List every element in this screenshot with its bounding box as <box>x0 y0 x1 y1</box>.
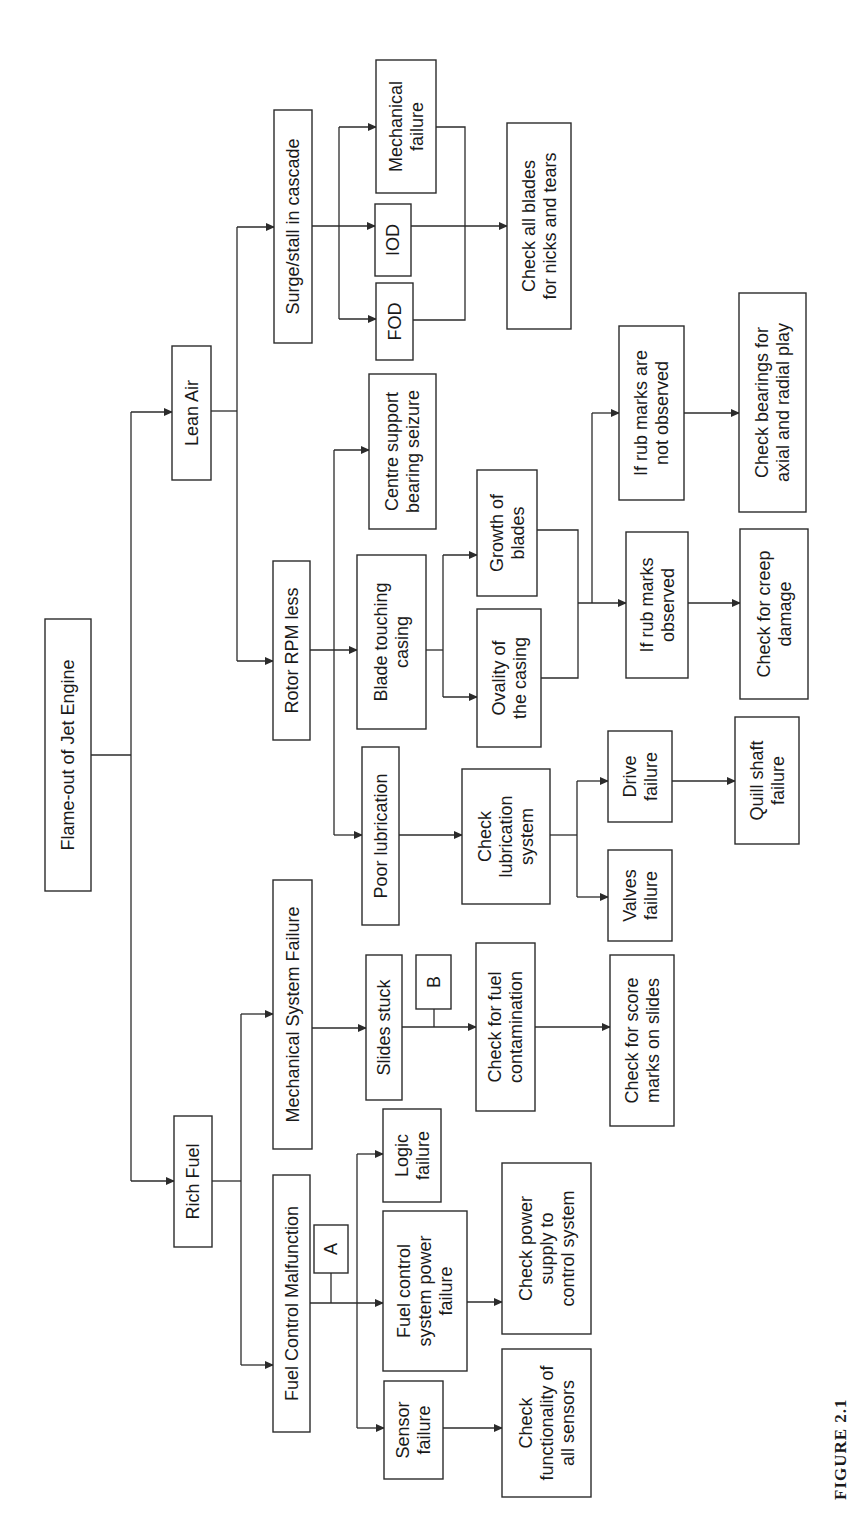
node-label: Rotor RPM less <box>282 587 302 713</box>
node-label: If rub marks arenot observed <box>631 350 672 476</box>
node-fuel-ctrl: Fuel Control Malfunction <box>273 1175 310 1432</box>
node-ovality: Ovality ofthe casing <box>477 609 541 747</box>
node-label: Surge/stall in cascade <box>283 138 303 314</box>
figure-caption: FIGURE 2.1 <box>831 1398 850 1500</box>
node-check-contam: Check for fuelcontamination <box>476 943 535 1111</box>
node-fc-power-fail: Fuel controlsystem powerfailure <box>383 1211 467 1371</box>
node-rub-observed: If rub marksobserved <box>626 532 688 678</box>
node-label: Mechanical System Failure <box>283 906 303 1122</box>
node-drive-fail: Drivefailure <box>608 731 672 822</box>
node-rich-fuel: Rich Fuel <box>174 1116 212 1247</box>
node-logic-fail: Logicfailure <box>383 1109 441 1202</box>
node-label: Lean Air <box>182 380 202 446</box>
node-centre-support: Centre supportbearing seizure <box>369 374 436 529</box>
node-root: Flame-out of Jet Engine <box>45 619 91 891</box>
node-label: Flame-out of Jet Engine <box>58 659 78 850</box>
node-slides-stuck: Slides stuck <box>366 955 402 1100</box>
node-mech-sys: Mechanical System Failure <box>273 880 312 1149</box>
node-label: Logicfailure <box>392 1131 433 1180</box>
node-check-blades: Check all bladesfor nicks and tears <box>507 123 571 329</box>
node-label: Slides stuck <box>374 978 394 1075</box>
node-iod: IOD <box>375 204 411 276</box>
node-quill-fail: Quill shaftfailure <box>735 717 799 844</box>
diagram-nodes: Flame-out of Jet EngineLean AirRich Fuel… <box>45 60 808 1497</box>
node-label: Drivefailure <box>620 752 661 801</box>
node-rub-not-observed: If rub marks arenot observed <box>619 326 684 500</box>
node-label: IOD <box>383 224 403 256</box>
node-check-power: Check powersupply tocontrol system <box>502 1163 591 1334</box>
node-label: A <box>321 1243 341 1255</box>
node-valves-fail: Valvesfailure <box>608 850 672 941</box>
node-lean-air: Lean Air <box>172 346 211 480</box>
node-sensor-fail: Sensorfailure <box>384 1381 443 1479</box>
node-check-lub: Checklubricationsystem <box>462 769 550 904</box>
node-label: Rich Fuel <box>183 1143 203 1219</box>
node-check-creep: Check for creepdamage <box>740 529 808 699</box>
node-label: Check bearings foraxial and radial play <box>752 323 793 482</box>
node-label: Centre supportbearing seizure <box>382 390 423 513</box>
node-label-b: B <box>416 955 451 1009</box>
node-label: Poor lubrication <box>371 773 391 898</box>
node-label: Sensorfailure <box>393 1401 434 1458</box>
node-poor-lub: Poor lubrication <box>362 747 399 925</box>
node-label: Check for scoremarks on slides <box>622 977 663 1103</box>
node-mech-fail: Mechanicalfailure <box>376 60 436 193</box>
node-label-a: A <box>314 1225 348 1273</box>
node-label: Valvesfailure <box>620 869 661 922</box>
node-label: Ovality ofthe casing <box>489 637 530 719</box>
node-fod: FOD <box>376 283 413 360</box>
fault-tree-diagram: Flame-out of Jet EngineLean AirRich Fuel… <box>0 0 850 1536</box>
node-check-score: Check for scoremarks on slides <box>610 955 674 1126</box>
node-label: If rub marksobserved <box>637 557 678 652</box>
node-label: FOD <box>385 303 405 341</box>
node-label: Fuel Control Malfunction <box>282 1206 302 1401</box>
node-growth: Growth ofblades <box>477 470 537 596</box>
node-blade-touching: Blade touchingcasing <box>357 555 426 729</box>
node-check-bearings: Check bearings foraxial and radial play <box>739 293 806 512</box>
connector-edge <box>537 530 578 678</box>
node-label: Check all bladesfor nicks and tears <box>519 152 560 299</box>
node-label: B <box>424 976 444 988</box>
node-rotor-rpm: Rotor RPM less <box>273 561 310 740</box>
node-label: Check for fuelcontamination <box>485 971 526 1083</box>
node-surge: Surge/stall in cascade <box>274 110 312 343</box>
node-check-sensors: Checkfunctionality ofall sensors <box>502 1349 591 1497</box>
